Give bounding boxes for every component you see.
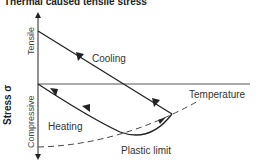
heating-arrow-icon-2 [82,104,90,112]
plastic-limit-label: Plastic limit [121,145,171,156]
cooling-arrow-icon [76,52,84,61]
y-axis-label: Stress σ [2,85,13,125]
stress-diagram [0,0,258,165]
temperature-label: Temperature [189,89,245,100]
down-arrow-icon [35,154,41,160]
cooling-label: Cooling [92,53,126,64]
tensile-label: Tensile [26,27,36,55]
cooling-line [38,31,172,114]
compressive-label: Compressive [26,95,36,148]
up-arrow-icon [35,12,41,18]
heating-label: Heating [48,121,82,132]
